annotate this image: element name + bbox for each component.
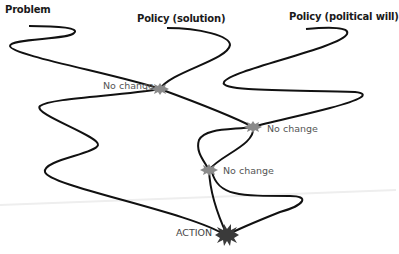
burst-icon-nc3: [200, 164, 218, 176]
stream-nc3-to-action-loop: [212, 172, 302, 235]
title-policy-solution: Policy (solution): [137, 13, 225, 24]
policy-solution-stream-line: [160, 28, 230, 89]
action-burst-icon: [215, 224, 239, 246]
background-divider: [0, 190, 396, 205]
no-change-label-3: No change: [223, 165, 274, 176]
stream-nc1-to-action: [39, 89, 225, 235]
stream-nc1-to-nc2: [160, 89, 253, 127]
action-label: ACTION: [176, 227, 212, 238]
no-change-label-2: No change: [267, 123, 318, 134]
title-policy-political-will: Policy (political will): [289, 11, 399, 22]
stream-nc2-to-nc3-right: [209, 127, 253, 170]
policy-political-will-stream-line: [224, 28, 363, 127]
stream-nc2-to-nc3-left: [198, 127, 253, 170]
no-change-label-1: No change: [103, 80, 154, 91]
title-problem: Problem: [5, 4, 51, 15]
